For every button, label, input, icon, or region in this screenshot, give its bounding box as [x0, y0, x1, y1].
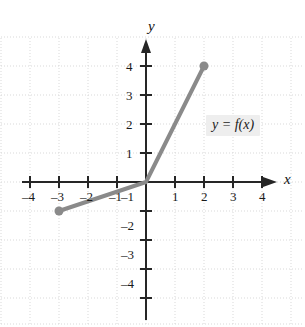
y-tick-label--4: –4 — [121, 277, 134, 290]
y-tick-label--1: –1 — [121, 190, 134, 203]
y-axis-label: y — [148, 19, 155, 34]
x-axis-label: x — [284, 172, 291, 187]
x-tick-label--2: –2 — [80, 190, 93, 203]
x-tick-label--3: –3 — [51, 190, 64, 203]
y-tick-label--3: –3 — [121, 248, 134, 261]
function-equation-label: y = f(x) — [206, 115, 260, 136]
x-tick-label-3: 3 — [230, 190, 237, 203]
y-tick-label--2: –2 — [121, 219, 134, 232]
x-tick-label-1: 1 — [172, 190, 179, 203]
coordinate-plane — [0, 0, 305, 327]
x-axis-arrowhead — [263, 177, 277, 187]
endpoint-dot-right — [200, 62, 209, 71]
x-tick-label-2: 2 — [201, 190, 208, 203]
y-axis-arrowhead — [141, 39, 151, 53]
y-tick-label-2: 2 — [126, 118, 133, 131]
x-tick-label--4: –4 — [22, 190, 35, 203]
y-tick-label-3: 3 — [126, 89, 133, 102]
x-tick-label-4: 4 — [259, 190, 266, 203]
endpoint-dot-left — [55, 207, 64, 216]
y-tick-label-4: 4 — [126, 60, 133, 73]
y-tick-label-1: 1 — [126, 147, 133, 160]
graph-figure: –4 –3 –2 –1 1 2 3 4 4 3 2 1 –1 –2 –3 –4 … — [0, 0, 305, 327]
